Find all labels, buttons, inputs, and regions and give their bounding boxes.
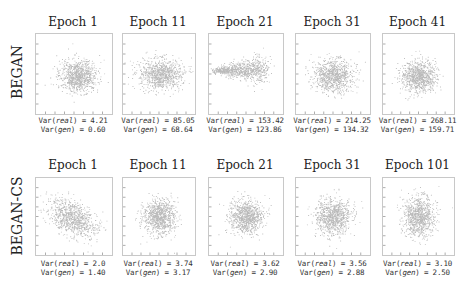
var-gen-annotation: Var(gen) = 2.50 <box>368 268 468 277</box>
variance-value: 153.42 <box>258 116 284 125</box>
variance-value: 3.17 <box>173 268 190 277</box>
panel-title: Epoch 1 <box>28 158 118 172</box>
var-real-annotation: Var(real) = 153.42 <box>195 116 295 125</box>
variance-value: 3.62 <box>262 259 279 268</box>
var-gen-annotation: Var(gen) = 2.90 <box>195 268 295 277</box>
var-real-annotation: Var(real) = 3.10 <box>368 259 468 268</box>
panel-title: Epoch 11 <box>113 15 203 29</box>
scatter-panel <box>382 177 455 256</box>
scatter-points <box>209 34 283 114</box>
scatter-panel <box>382 33 455 115</box>
variance-value: 268.11 <box>430 116 456 125</box>
var-real-annotation: Var(real) = 268.11 <box>368 116 468 125</box>
panel-title: Epoch 31 <box>287 158 377 172</box>
row-label: BEGAN <box>9 22 25 122</box>
panel-title: Epoch 101 <box>373 158 463 172</box>
var-gen-annotation: Var(gen) = 68.64 <box>108 125 208 134</box>
scatter-points <box>36 178 112 255</box>
variance-value: 123.86 <box>256 125 282 134</box>
scatter-points <box>123 34 195 114</box>
variance-value: 68.64 <box>171 125 193 134</box>
variance-value: 3.10 <box>435 259 452 268</box>
var-gen-annotation: Var(gen) = 123.86 <box>195 125 295 134</box>
variance-value: 0.60 <box>88 125 105 134</box>
variance-value: 2.90 <box>260 268 277 277</box>
scatter-panel <box>122 177 196 256</box>
panel-title: Epoch 31 <box>287 15 377 29</box>
panel-title: Epoch 41 <box>373 15 463 29</box>
variance-value: 3.74 <box>175 259 192 268</box>
var-real-annotation: Var(real) = 3.74 <box>108 259 208 268</box>
scatter-points <box>383 34 454 114</box>
row-label: BEGAN-CS <box>9 166 25 266</box>
scatter-panel <box>35 177 113 256</box>
variance-value: 2.88 <box>347 268 364 277</box>
variance-value: 4.21 <box>90 116 107 125</box>
variance-value: 3.56 <box>349 259 366 268</box>
scatter-panel <box>295 177 371 256</box>
scatter-panel <box>295 33 371 115</box>
panel-title: Epoch 21 <box>200 158 290 172</box>
scatter-panel <box>208 33 284 115</box>
var-gen-annotation: Var(gen) = 3.17 <box>108 268 208 277</box>
panel-title: Epoch 1 <box>28 15 118 29</box>
scatter-points <box>123 178 195 255</box>
var-real-annotation: Var(real) = 3.62 <box>195 259 295 268</box>
variance-value: 85.05 <box>173 116 195 125</box>
variance-value: 159.71 <box>428 125 454 134</box>
scatter-panel <box>35 33 113 115</box>
panel-title: Epoch 21 <box>200 15 290 29</box>
var-real-annotation: Var(real) = 85.05 <box>108 116 208 125</box>
variance-value: 2.50 <box>433 268 450 277</box>
scatter-points <box>296 178 370 255</box>
scatter-points <box>36 34 112 114</box>
var-gen-annotation: Var(gen) = 159.71 <box>368 125 468 134</box>
scatter-points <box>296 34 370 114</box>
panel-title: Epoch 11 <box>113 158 203 172</box>
scatter-panel <box>208 177 284 256</box>
variance-value: 2.0 <box>92 259 105 268</box>
variance-value: 134.32 <box>343 125 369 134</box>
scatter-panel <box>122 33 196 115</box>
variance-value: 1.40 <box>88 268 105 277</box>
scatter-points <box>209 178 283 255</box>
scatter-points <box>383 178 454 255</box>
